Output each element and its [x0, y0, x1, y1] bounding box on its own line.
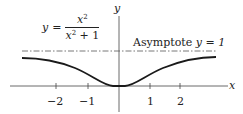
eq-den-tail: + 1 [76, 29, 99, 42]
asymptote-label: Asymptote y = 1 [133, 37, 225, 48]
eq-lhs: y [42, 21, 48, 34]
equation-label: y = x2 x2 + 1 [42, 14, 99, 41]
tick-label-neg1: −1 [79, 96, 95, 107]
graph-canvas [0, 0, 243, 114]
tick-label-neg2: −2 [47, 96, 63, 107]
eq-fraction: x2 x2 + 1 [65, 14, 99, 41]
eq-num-exp: 2 [83, 13, 87, 21]
y-axis-label: y [114, 3, 120, 14]
x-axis-label: x [229, 80, 235, 91]
eq-equals: = [52, 21, 61, 34]
tick-label-2: 2 [177, 96, 184, 107]
tick-label-1: 1 [147, 96, 154, 107]
